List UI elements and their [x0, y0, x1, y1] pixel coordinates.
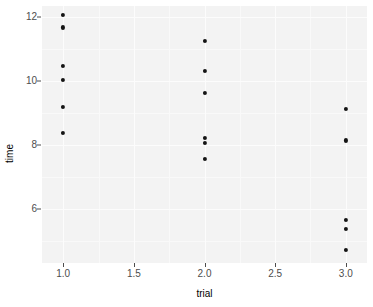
y-axis-tick-mark	[37, 144, 41, 145]
y-axis-tick-mark	[37, 208, 41, 209]
x-axis-tick-mark	[275, 263, 276, 267]
gridline-minor-vertical	[99, 6, 100, 263]
gridline-major-vertical	[205, 6, 206, 263]
gridline-minor-vertical	[169, 6, 170, 263]
x-axis-tick-mark	[205, 263, 206, 267]
data-point	[344, 247, 348, 251]
gridline-major-horizontal	[42, 17, 367, 18]
data-point	[344, 107, 348, 111]
gridline-major-vertical	[275, 6, 276, 263]
x-axis-tick-label: 1.0	[43, 269, 83, 279]
scatter-plot: time 121086 1.01.52.02.53.0 trial	[0, 0, 373, 307]
data-point	[61, 25, 65, 29]
data-point	[202, 69, 206, 73]
data-point	[202, 91, 206, 95]
data-point	[202, 136, 206, 140]
x-axis-title: trial	[42, 288, 367, 299]
x-axis-tick-mark	[63, 263, 64, 267]
data-point	[202, 39, 206, 43]
gridline-minor-vertical	[240, 6, 241, 263]
y-axis-tick-mark	[37, 81, 41, 82]
y-axis-tick-label: 6	[15, 204, 37, 214]
y-axis-tick-label: 10	[15, 76, 37, 86]
x-axis-tick-label: 3.0	[326, 269, 366, 279]
gridline-major-horizontal	[42, 209, 367, 210]
x-axis-tick-label: 2.5	[255, 269, 295, 279]
y-axis-tick-label: 8	[15, 140, 37, 150]
gridline-major-vertical	[134, 6, 135, 263]
gridline-major-vertical	[346, 6, 347, 263]
data-point	[344, 227, 348, 231]
y-axis-tick-label: 12	[15, 12, 37, 22]
plot-panel	[42, 6, 367, 263]
data-point	[61, 64, 65, 68]
data-point	[344, 138, 348, 142]
data-point	[61, 105, 65, 109]
x-axis-tick-mark	[134, 263, 135, 267]
y-axis-tick-labels: 121086	[12, 0, 37, 307]
x-axis-tick-label: 2.0	[185, 269, 225, 279]
data-point	[344, 217, 348, 221]
data-point	[202, 157, 206, 161]
gridline-minor-vertical	[310, 6, 311, 263]
x-axis-tick-mark	[346, 263, 347, 267]
data-point	[61, 131, 65, 135]
x-axis-tick-label: 1.5	[114, 269, 154, 279]
gridline-major-horizontal	[42, 145, 367, 146]
gridline-major-horizontal	[42, 81, 367, 82]
y-axis-tick-mark	[37, 17, 41, 18]
